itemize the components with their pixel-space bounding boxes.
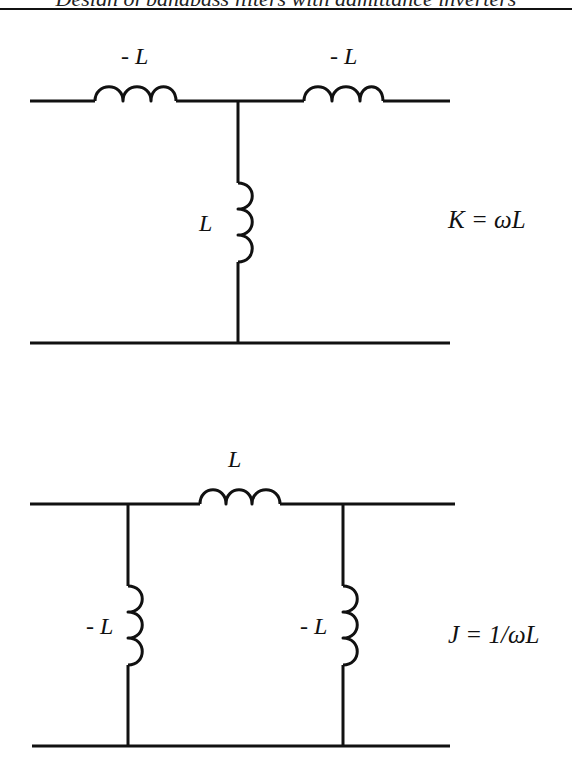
j-shunt-right-label: - L (300, 614, 327, 638)
k-shunt-label: L (199, 211, 212, 235)
j-shunt-left-label: - L (86, 614, 113, 638)
right-shunt-inductor (343, 586, 357, 665)
series-inductor-right (304, 87, 383, 101)
j-formula: J = 1/ωL (448, 622, 539, 647)
k-inverter-circuit (30, 87, 450, 343)
k-formula: K = ωL (448, 207, 526, 232)
k-series-right-label: - L (330, 44, 357, 68)
k-series-left-label: - L (121, 44, 148, 68)
left-shunt-inductor (128, 586, 142, 665)
inverter-circuits-diagram (0, 0, 572, 765)
shunt-inductor (238, 183, 252, 262)
j-series-label: L (228, 447, 241, 471)
series-inductor-left (95, 87, 176, 101)
series-inductor (200, 490, 280, 504)
